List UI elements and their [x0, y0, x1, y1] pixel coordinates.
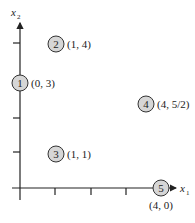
node-4-coord: (4, 5/2) [157, 98, 190, 111]
node-1-coord: (0, 3) [31, 77, 55, 90]
svg-text:x: x [179, 182, 185, 194]
svg-text:2: 2 [17, 13, 21, 21]
node-4: 4 (4, 5/2) [138, 96, 190, 112]
svg-text:5: 5 [158, 182, 164, 194]
y-axis-label: x 2 [10, 6, 21, 21]
node-3-coord: (1, 1) [67, 148, 91, 161]
node-5-coord: (4, 0) [149, 199, 173, 212]
svg-text:2: 2 [53, 38, 59, 50]
svg-text:1: 1 [17, 77, 23, 89]
node-3: 3 (1, 1) [48, 146, 91, 162]
x-axis-label: x 1 [179, 182, 190, 197]
svg-text:4: 4 [143, 98, 149, 110]
node-2-coord: (1, 4) [67, 38, 91, 51]
node-2: 2 (1, 4) [48, 36, 91, 52]
node-1: 1 (0, 3) [12, 75, 55, 91]
svg-text:x: x [10, 6, 16, 18]
svg-text:3: 3 [53, 148, 59, 160]
coordinate-diagram: x 2 x 1 1 (0, 3) 2 (1, 4) 3 (1, 1) 4 (4,… [0, 0, 195, 223]
node-5: 5 (4, 0) [149, 180, 173, 212]
svg-text:1: 1 [186, 189, 190, 197]
